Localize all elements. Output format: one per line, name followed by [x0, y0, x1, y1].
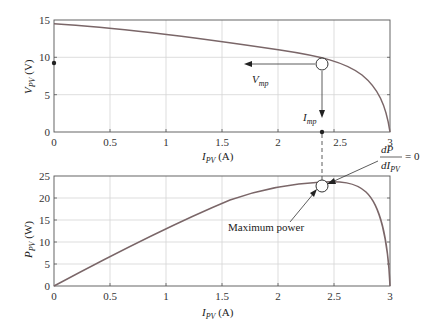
max-power-label: Maximum power	[228, 221, 304, 233]
svg-text:5: 5	[45, 89, 51, 101]
dpdi-label: dP dIPV = 0	[380, 143, 420, 174]
mpp-marker-top	[316, 58, 328, 70]
vmp-axis-dot	[52, 61, 56, 65]
svg-text:1.5: 1.5	[215, 136, 229, 148]
svg-text:1: 1	[163, 136, 169, 148]
imp-axis-dot	[320, 130, 324, 134]
mpp-marker-bottom	[316, 180, 328, 192]
max-power-arrow-line	[290, 193, 314, 222]
svg-text:3: 3	[387, 290, 393, 302]
svg-text:0.5: 0.5	[103, 290, 117, 302]
bottom-x-ticks: 0 0.5 1 1.5 2 2.5 3	[51, 290, 393, 302]
svg-text:10: 10	[39, 236, 51, 248]
vmp-label: Vmp	[252, 73, 269, 88]
svg-text:15: 15	[39, 14, 51, 26]
svg-text:1.5: 1.5	[215, 290, 229, 302]
bottom-y-axis-label: PPV (W)	[22, 221, 37, 259]
svg-text:0: 0	[51, 136, 57, 148]
svg-text:2.5: 2.5	[327, 290, 341, 302]
max-power-arrowhead-icon	[310, 189, 317, 197]
bottom-grid	[54, 176, 390, 286]
top-y-ticks: 15 10 5 0	[39, 14, 51, 138]
svg-text:0: 0	[51, 290, 57, 302]
svg-text:5: 5	[45, 258, 51, 270]
svg-text:0.5: 0.5	[103, 136, 117, 148]
svg-text:0: 0	[45, 126, 51, 138]
top-grid	[54, 20, 390, 132]
vmp-arrowhead-icon	[244, 61, 252, 67]
svg-text:dP: dP	[381, 143, 394, 155]
dpdi-arrowhead-icon	[327, 178, 336, 184]
svg-text:dIPV: dIPV	[381, 159, 401, 174]
svg-text:10: 10	[39, 51, 51, 63]
bottom-y-ticks: 25 20 15 10 5 0	[39, 170, 51, 292]
svg-text:1: 1	[163, 290, 169, 302]
bottom-plot: Maximum power dP dIPV = 0 25 20 15 10 5 …	[22, 143, 420, 321]
svg-text:15: 15	[39, 214, 51, 226]
svg-text:= 0: = 0	[405, 150, 420, 162]
dpdi-arrow-line	[332, 161, 378, 182]
top-x-ticks: 0 0.5 1 1.5 2 2.5 3	[51, 136, 393, 148]
svg-text:2.5: 2.5	[333, 136, 347, 148]
top-x-axis-label: IPV (A)	[201, 150, 234, 165]
top-y-axis-label: VPV (V)	[22, 59, 37, 94]
imp-label: Imp	[302, 111, 316, 126]
svg-text:2: 2	[275, 136, 281, 148]
svg-text:25: 25	[39, 170, 51, 182]
bottom-x-axis-label: IPV (A)	[201, 306, 234, 321]
svg-text:2: 2	[275, 290, 281, 302]
pv-characteristics-figure: Vmp Imp 15 10 5 0 0 0.5 1 1.5 2 2.5 3 IP…	[0, 0, 432, 326]
top-plot: Vmp Imp 15 10 5 0 0 0.5 1 1.5 2 2.5 3 IP…	[22, 14, 393, 165]
svg-text:20: 20	[39, 192, 51, 204]
svg-text:0: 0	[45, 280, 51, 292]
imp-arrowhead-icon	[319, 110, 325, 118]
